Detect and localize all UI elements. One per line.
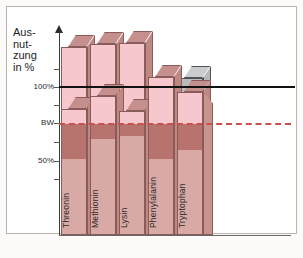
- bar-front-methionin: Methionin: [90, 96, 116, 235]
- reference-line-100: [59, 86, 295, 88]
- bar-segment-bw: [62, 124, 86, 161]
- bar-front-threonin: Threonin: [61, 109, 87, 235]
- bar-tryptophan[interactable]: Tryptophan: [177, 92, 203, 235]
- bar-label-phenylalanin: Phenylalanin: [148, 177, 158, 228]
- bar-phenylalanin[interactable]: Phenylalanin: [148, 77, 174, 235]
- y-axis-title-line-3: zung: [13, 50, 57, 62]
- y-axis-title-line-1: Aus-: [13, 27, 57, 39]
- bar-group: Valin Leucin: [59, 7, 291, 235]
- bar-lysin[interactable]: Lysin: [119, 111, 145, 235]
- bw-reference-line: [59, 123, 291, 125]
- bar-segment-light: [149, 78, 173, 124]
- screenshot-root: Aus- nut- zung in % 100% BW 50%: [0, 0, 303, 258]
- chart-frame: Aus- nut- zung in % 100% BW 50%: [6, 6, 297, 234]
- bar-segment-light: [178, 93, 202, 124]
- bar-threonin[interactable]: Threonin: [61, 109, 87, 235]
- bar-label-methionin: Methionin: [90, 189, 100, 228]
- y-tick-label-100: 100%: [21, 82, 54, 91]
- y-axis-title-line-4: in %: [13, 62, 57, 74]
- block-right-wedge: [203, 92, 213, 235]
- bar-segment-bw: [178, 124, 202, 152]
- x-axis-line: [59, 235, 291, 236]
- plot-area: Aus- nut- zung in % 100% BW 50%: [7, 7, 298, 235]
- y-tick-label-50: 50%: [21, 156, 54, 165]
- y-tick-label-bw: BW: [21, 118, 54, 127]
- bar-methionin[interactable]: Methionin: [90, 96, 116, 235]
- bar-label-lysin: Lysin: [119, 207, 129, 228]
- bar-segment-light: [91, 97, 115, 124]
- bar-segment-bw: [149, 124, 173, 161]
- bar-label-tryptophan: Tryptophan: [177, 183, 187, 228]
- bar-label-threonin: Threonin: [61, 193, 71, 228]
- bar-front-lysin: Lysin: [119, 111, 145, 235]
- bar-front-tryptophan: Tryptophan: [177, 92, 203, 235]
- y-axis-title: Aus- nut- zung in %: [13, 27, 57, 73]
- bar-segment-light: [62, 110, 86, 124]
- bar-front-phenylalanin: Phenylalanin: [148, 77, 174, 235]
